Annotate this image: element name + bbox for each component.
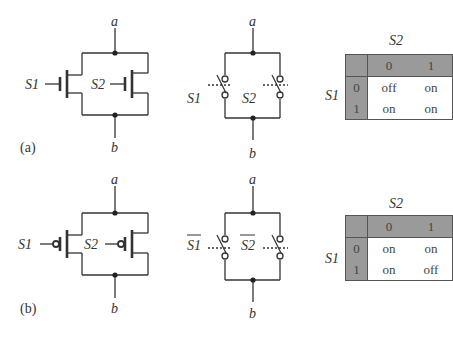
switch-node-b-label: b <box>249 146 256 161</box>
table-cell: on <box>367 98 410 120</box>
gate-s1-label: S1 <box>25 77 39 92</box>
table-cell: on <box>410 77 452 99</box>
node-a-label: a <box>111 14 118 29</box>
gate-s2-label: S2 <box>91 77 105 92</box>
switch-s1-label: S1 <box>187 91 201 106</box>
table-corner <box>346 216 368 238</box>
row-header: 1 <box>346 98 368 120</box>
table-corner <box>346 55 368 77</box>
row-header: 1 <box>346 259 368 281</box>
table-row-var-label: S1 <box>325 251 339 267</box>
panel-caption-b: (b) <box>20 301 37 317</box>
table-cell: off <box>410 259 453 281</box>
diagram-canvas: a b S1 S2 (a) a b S1 S2 a b S1 S2 (b) a … <box>0 0 453 337</box>
table-col-var-label: S2 <box>389 196 403 212</box>
switch-s2-label: S2 <box>242 91 256 106</box>
table-col-var-label: S2 <box>389 33 403 49</box>
col-header: 0 <box>367 216 409 238</box>
table-cell: on <box>410 238 453 260</box>
table-cell: on <box>367 238 409 260</box>
table-cell: off <box>367 77 410 99</box>
switch-circuit-a <box>208 28 288 140</box>
row-header: 0 <box>346 238 368 260</box>
col-header: 0 <box>367 55 410 77</box>
col-header: 1 <box>410 55 452 77</box>
panel-caption-a: (a) <box>20 140 36 156</box>
node-a-label: a <box>111 172 118 187</box>
table-cell: on <box>410 98 452 120</box>
gate-s1-label: S1 <box>18 237 32 252</box>
truth-table-a: 0 1 0 off on 1 on on <box>345 54 453 120</box>
switch-s1-bar-label: S1 <box>187 238 201 253</box>
gate-s2-label: S2 <box>84 237 98 252</box>
col-header: 1 <box>410 216 453 238</box>
row-header: 0 <box>346 77 368 99</box>
truth-table-b: 0 1 0 on on 1 on off <box>345 215 453 281</box>
table-cell: on <box>367 259 409 281</box>
node-b-label: b <box>111 140 118 155</box>
node-b-label: b <box>111 301 118 316</box>
switch-s2-bar-label: S2 <box>241 238 255 253</box>
table-row-var-label: S1 <box>325 88 339 104</box>
switch-node-b-label: b <box>249 306 256 321</box>
switch-node-a-label: a <box>249 172 256 187</box>
switch-node-a-label: a <box>249 14 256 29</box>
